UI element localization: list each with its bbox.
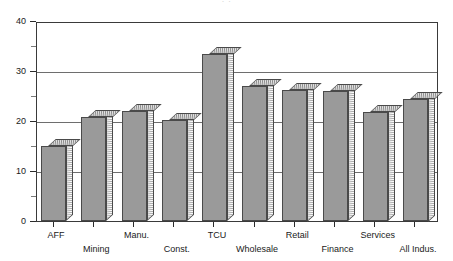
y-tick-label-20: 20 xyxy=(4,116,26,126)
x-axis-label-retail: Retail xyxy=(286,230,309,240)
bar-top-face xyxy=(370,105,403,112)
chart-title-remnant: · · xyxy=(0,0,453,5)
bar-manu xyxy=(122,111,147,221)
bar-front-face xyxy=(162,120,187,221)
x-tick-4 xyxy=(213,222,214,227)
bar-front-face xyxy=(202,54,227,221)
bar-chart: · · 010203040 AFFMiningManu.Const.TCUWho… xyxy=(0,0,453,261)
bar-front-face xyxy=(403,99,428,222)
x-axis-label-aff: AFF xyxy=(48,230,65,240)
x-axis-label-mining: Mining xyxy=(83,244,110,254)
x-axis-label-services: Services xyxy=(360,230,395,240)
bar-top-face xyxy=(209,47,242,54)
x-axis-label-const: Const. xyxy=(164,244,190,254)
bar-finance xyxy=(323,91,348,221)
bar-top-face xyxy=(289,83,322,90)
x-tick-6 xyxy=(294,222,295,227)
bar-side-face xyxy=(348,85,355,221)
bar-top-face xyxy=(249,79,282,86)
bar-side-face xyxy=(66,140,73,221)
plot-area xyxy=(36,22,438,222)
y-tick-label-10: 10 xyxy=(4,166,26,176)
bar-front-face xyxy=(323,91,348,221)
bar-front-face xyxy=(282,90,307,222)
bar-front-face xyxy=(242,86,267,221)
bar-side-face xyxy=(227,48,234,221)
bar-front-face xyxy=(363,112,388,221)
bar-side-face xyxy=(187,114,194,221)
bar-side-face xyxy=(147,105,154,221)
bar-allindus xyxy=(403,99,428,222)
bar-const xyxy=(162,120,187,221)
x-axis-label-manu: Manu. xyxy=(124,230,149,240)
bar-top-face xyxy=(48,139,81,146)
bar-front-face xyxy=(122,111,147,221)
bar-front-face xyxy=(41,146,66,221)
x-axis-label-tcu: TCU xyxy=(208,230,227,240)
x-tick-0 xyxy=(53,222,54,227)
x-tick-8 xyxy=(374,222,375,227)
x-axis-label-allindus: All Indus. xyxy=(399,244,436,254)
x-axis-label-wholesale: Wholesale xyxy=(236,244,278,254)
y-tick-label-30: 30 xyxy=(4,66,26,76)
bar-top-face xyxy=(169,113,202,120)
bar-top-face xyxy=(129,104,162,111)
bar-tcu xyxy=(202,54,227,221)
bar-front-face xyxy=(81,117,106,221)
gridline-30 xyxy=(37,72,437,73)
bar-services xyxy=(363,112,388,221)
bar-side-face xyxy=(307,83,314,221)
bar-aff xyxy=(41,146,66,221)
x-axis-label-finance: Finance xyxy=(321,244,353,254)
x-tick-9 xyxy=(414,222,415,227)
x-tick-5 xyxy=(254,222,255,227)
bar-mining xyxy=(81,117,106,221)
bar-wholesale xyxy=(242,86,267,221)
bar-top-face xyxy=(88,110,121,117)
bar-side-face xyxy=(388,106,395,221)
x-tick-3 xyxy=(173,222,174,227)
bar-top-face xyxy=(410,92,443,99)
bar-top-face xyxy=(330,84,363,91)
bar-side-face xyxy=(428,92,435,221)
bar-side-face xyxy=(267,80,274,221)
x-tick-1 xyxy=(93,222,94,227)
bar-side-face xyxy=(106,111,113,221)
x-tick-7 xyxy=(334,222,335,227)
bar-retail xyxy=(282,90,307,222)
y-tick-label-40: 40 xyxy=(4,16,26,26)
x-tick-2 xyxy=(133,222,134,227)
y-tick-label-0: 0 xyxy=(4,216,26,226)
